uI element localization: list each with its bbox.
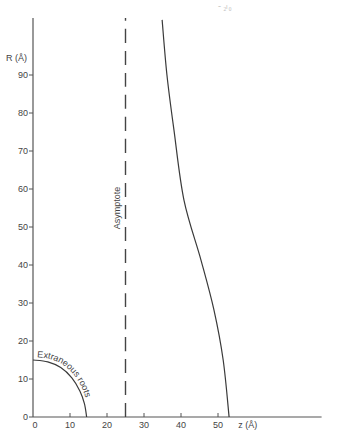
x-ticks: 01020304050	[32, 413, 223, 430]
y-tick-label: 10	[18, 374, 28, 384]
header-fragment: - ₂ₗ₀	[218, 1, 232, 11]
y-tick-label: 0	[23, 412, 28, 422]
y-tick-label: 70	[18, 146, 28, 156]
chart: - ₂ₗ₀ 0102030405060708090 01020304050 R …	[0, 0, 340, 442]
x-tick-label: 30	[139, 420, 149, 430]
y-tick-label: 80	[18, 108, 28, 118]
x-tick-label: 0	[32, 420, 37, 430]
x-axis-label: z (Å)	[238, 420, 257, 430]
x-tick-label: 20	[102, 420, 112, 430]
y-ticks: 0102030405060708090	[18, 70, 33, 422]
asymptote-label: Asymptote	[112, 187, 122, 230]
extraneous-roots-label: Extraneous roots	[37, 349, 94, 399]
y-tick-label: 40	[18, 260, 28, 270]
x-tick-label: 40	[176, 420, 186, 430]
y-tick-label: 90	[18, 70, 28, 80]
x-tick-label: 50	[213, 420, 223, 430]
y-tick-label: 60	[18, 184, 28, 194]
solution-line	[162, 20, 229, 417]
y-tick-label: 30	[18, 298, 28, 308]
x-tick-label: 10	[65, 420, 75, 430]
y-axis-label: R (Å)	[6, 53, 27, 63]
y-tick-label: 20	[18, 336, 28, 346]
y-tick-label: 50	[18, 222, 28, 232]
